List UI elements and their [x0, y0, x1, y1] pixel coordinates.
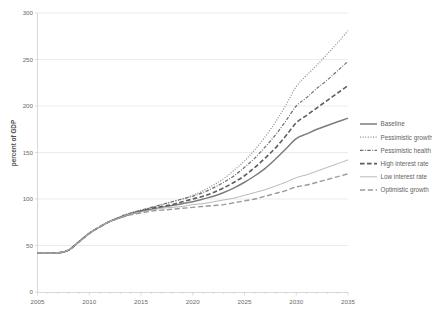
y-axis-title: percent of GDP	[10, 119, 18, 166]
x-axis-tick-label: 2025	[238, 298, 252, 305]
y-axis-tick-label: 0	[30, 288, 34, 295]
x-axis-tick-label: 2035	[341, 298, 355, 305]
y-axis-tick-labels: 050100150200250300	[23, 9, 34, 295]
chart-container: percent of GDP 050100150200250300 200520…	[0, 0, 432, 317]
y-axis-tick-label: 200	[23, 102, 34, 109]
series-line	[38, 86, 349, 254]
series-line	[38, 160, 349, 253]
legend-item-label[interactable]: Optimistic growth	[381, 186, 430, 194]
y-axis-tick-label: 100	[23, 195, 34, 202]
series-line	[38, 174, 349, 253]
y-gridlines	[35, 13, 348, 292]
series-line	[38, 61, 349, 253]
legend-item-label[interactable]: Pessimistic health	[381, 147, 432, 154]
series-lines	[38, 31, 349, 253]
x-axis-tick-label: 2015	[134, 298, 148, 305]
y-axis-tick-label: 300	[23, 9, 34, 16]
x-axis-tick-label: 2010	[82, 298, 96, 305]
x-axis-tick-label: 2030	[289, 298, 303, 305]
legend-item-label[interactable]: High interest rate	[381, 160, 429, 168]
line-chart: percent of GDP 050100150200250300 200520…	[0, 0, 432, 317]
chart-legend: BaselinePessimistic growthPessimistic he…	[360, 120, 432, 194]
y-axis-tick-label: 150	[23, 149, 34, 156]
y-axis-tick-label: 50	[26, 242, 33, 249]
y-axis-tick-label: 250	[23, 56, 34, 63]
x-axis-tick-label: 2005	[31, 298, 45, 305]
legend-item-label[interactable]: Pessimistic growth	[381, 134, 432, 142]
legend-item-label[interactable]: Baseline	[381, 120, 406, 127]
series-line	[38, 31, 349, 253]
legend-item-label[interactable]: Low interest rate	[381, 173, 428, 180]
x-axis-tick-label: 2020	[186, 298, 200, 305]
x-axis-tick-labels: 2005201020152020202520302035	[31, 298, 356, 305]
